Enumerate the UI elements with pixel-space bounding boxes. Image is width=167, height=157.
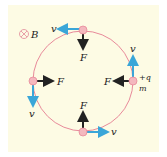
force-label-bottom: F (79, 100, 88, 111)
charge-label: +q (139, 73, 151, 82)
b-field-icon (20, 30, 29, 39)
velocity-label-bottom: v (111, 126, 117, 137)
charge-left (29, 77, 37, 85)
b-field-label: B (30, 29, 38, 40)
force-label-top: F (79, 52, 88, 63)
charge-top (79, 26, 87, 34)
circular-motion-diagram: B v F v F +q m v F v F (0, 0, 167, 157)
charge-right (129, 77, 137, 85)
velocity-label-left: v (29, 108, 35, 119)
velocity-label-right: v (130, 43, 136, 54)
force-label-right: F (103, 76, 112, 87)
mass-label: m (139, 84, 147, 93)
charge-bottom (79, 128, 87, 136)
force-label-left: F (56, 76, 65, 87)
velocity-label-top: v (51, 23, 57, 34)
